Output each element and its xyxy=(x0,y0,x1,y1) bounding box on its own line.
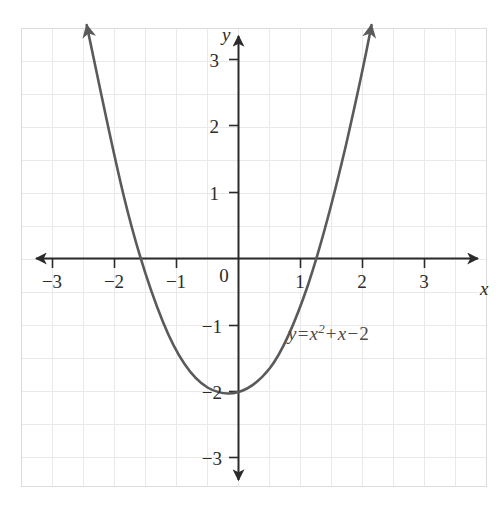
equation-plus: + xyxy=(325,323,338,344)
x-tick-label--3: −3 xyxy=(42,272,62,291)
equation-annotation: y=x2+x−2 xyxy=(288,324,369,343)
x-tick-label-3: 3 xyxy=(419,272,429,291)
parabola-plot xyxy=(0,0,503,518)
x-tick-label--1: −1 xyxy=(166,272,186,291)
equation-equals: = xyxy=(297,323,310,344)
equation-term3: 2 xyxy=(359,323,369,344)
equation-minus: − xyxy=(346,323,359,344)
x-axis-name: x xyxy=(480,279,488,298)
y-tick-label--3: −3 xyxy=(202,449,222,468)
y-tick-label--1: −1 xyxy=(202,317,222,336)
equation-term1-base: x xyxy=(310,323,319,344)
y-tick-label-2: 2 xyxy=(210,117,220,136)
equation-term1-exponent: 2 xyxy=(318,321,325,336)
graph-figure: −3 −2 −1 1 2 3 0 3 2 1 −1 −2 −3 y x y=x2… xyxy=(0,0,503,518)
x-tick-label-1: 1 xyxy=(295,272,305,291)
origin-label: 0 xyxy=(219,266,229,285)
y-axis-name: y xyxy=(222,25,230,44)
y-tick-label-3: 3 xyxy=(210,51,220,70)
x-tick-label--2: −2 xyxy=(104,272,124,291)
x-tick-label-2: 2 xyxy=(357,272,367,291)
y-tick-label-1: 1 xyxy=(210,184,220,203)
y-tick-label--2: −2 xyxy=(202,383,222,402)
equation-lhs: y xyxy=(288,323,297,344)
